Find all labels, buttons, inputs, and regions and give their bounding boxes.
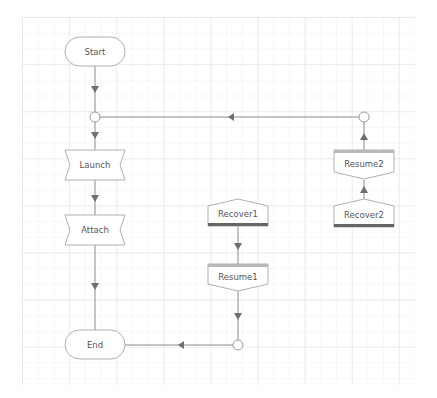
node-recover2-label: Recover2 (344, 210, 384, 220)
node-start-label: Start (85, 47, 106, 57)
diagram-canvas[interactable]: Start Launch Attach End Recover1 Resume1… (0, 0, 437, 398)
junction-right[interactable] (359, 112, 369, 122)
node-attach[interactable]: Attach (65, 215, 125, 245)
node-resume1-label: Resume1 (218, 272, 258, 282)
node-resume2-label: Resume2 (344, 159, 384, 169)
node-start[interactable]: Start (65, 37, 125, 66)
status-bar (208, 223, 268, 226)
node-end-label: End (87, 340, 103, 350)
junction-top[interactable] (90, 112, 100, 122)
status-bar (334, 224, 394, 227)
node-recover1-label: Recover1 (218, 209, 258, 219)
node-attach-label: Attach (81, 225, 109, 235)
node-end[interactable]: End (65, 330, 125, 359)
node-launch-label: Launch (80, 160, 111, 170)
node-launch[interactable]: Launch (65, 150, 125, 180)
junction-bottom[interactable] (233, 340, 243, 350)
status-bar (208, 264, 268, 267)
status-bar (334, 150, 394, 153)
